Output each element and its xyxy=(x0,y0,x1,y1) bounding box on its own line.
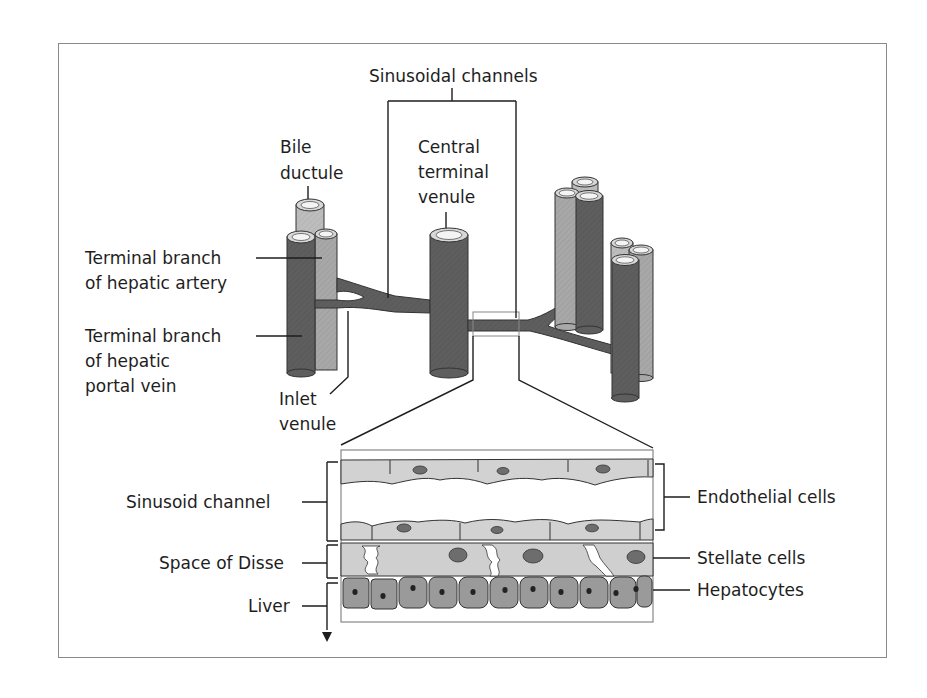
lower-endothelial-layer xyxy=(341,519,653,540)
sinusoid-channel-bracket xyxy=(302,462,338,541)
label-sinusoid-channel: Sinusoid channel xyxy=(126,492,271,512)
label-central-terminal-venule: Central terminal venule xyxy=(418,137,489,207)
space-of-disse-bracket xyxy=(302,545,338,578)
central-venule-vessel xyxy=(430,228,468,378)
svg-text:Terminal branch: Terminal branch xyxy=(84,248,221,268)
hepatic-microcirculation-diagram: Sinusoidal channels Bile ductule Central… xyxy=(0,0,927,698)
portal-vein-vessel xyxy=(287,231,315,377)
svg-text:of hepatic artery: of hepatic artery xyxy=(85,273,227,293)
endothelial-cells-bracket xyxy=(655,464,690,530)
svg-text:Inlet: Inlet xyxy=(279,389,317,409)
label-endothelial-cells: Endothelial cells xyxy=(697,487,836,507)
label-bile-ductule: Bile ductule xyxy=(280,137,344,183)
label-portal-vein: Terminal branch of hepatic portal vein xyxy=(84,326,221,396)
label-sinusoidal-channels: Sinusoidal channels xyxy=(369,66,538,86)
svg-text:portal vein: portal vein xyxy=(85,376,176,396)
label-stellate-cells: Stellate cells xyxy=(697,548,806,568)
upper-endothelial-layer xyxy=(341,459,653,485)
svg-text:Bile: Bile xyxy=(280,137,312,157)
svg-text:venule: venule xyxy=(418,187,475,207)
svg-text:venule: venule xyxy=(279,414,336,434)
label-inlet-venule: Inlet venule xyxy=(279,389,336,434)
liver-leader xyxy=(302,583,338,630)
label-liver: Liver xyxy=(248,596,290,616)
label-space-of-disse: Space of Disse xyxy=(159,553,284,573)
right-triad-lower xyxy=(611,238,653,402)
svg-text:of hepatic: of hepatic xyxy=(85,351,170,371)
right-triad-upper xyxy=(555,177,603,334)
hepatocyte-row xyxy=(343,576,652,609)
label-hepatic-artery: Terminal branch of hepatic artery xyxy=(84,248,227,293)
magnified-sinusoid-section xyxy=(341,450,653,622)
vessel-illustration xyxy=(287,177,653,402)
svg-text:terminal: terminal xyxy=(418,162,489,182)
svg-text:Terminal branch: Terminal branch xyxy=(84,326,221,346)
svg-text:Central: Central xyxy=(418,137,480,157)
liver-arrow-icon xyxy=(322,632,332,642)
label-hepatocytes: Hepatocytes xyxy=(697,580,804,600)
stellate-layer xyxy=(341,543,653,576)
svg-text:ductule: ductule xyxy=(280,163,344,183)
